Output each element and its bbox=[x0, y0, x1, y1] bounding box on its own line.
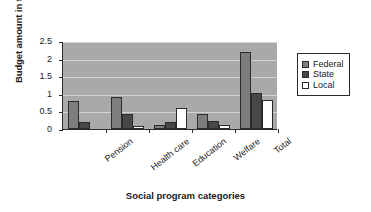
chart-legend: Federal State Local bbox=[297, 53, 350, 96]
legend-item-federal: Federal bbox=[302, 60, 344, 69]
bar-federal-education bbox=[154, 125, 165, 129]
bar-state-total bbox=[251, 93, 262, 129]
bar-local-welfare bbox=[219, 125, 230, 129]
bar-group bbox=[106, 42, 149, 129]
bar-state-health-care bbox=[122, 114, 133, 129]
x-axis-label-education: Education bbox=[191, 136, 229, 169]
x-axis-tick-labels: PensionHealth careEducationWelfareTotal bbox=[62, 132, 277, 178]
bar-group bbox=[149, 42, 192, 129]
x-axis-label-welfare: Welfare bbox=[232, 136, 262, 163]
legend-swatch-state bbox=[302, 71, 309, 78]
y-axis-tick-label: 1 bbox=[0, 90, 52, 99]
bar-federal-welfare bbox=[197, 114, 208, 129]
bar-group bbox=[63, 42, 106, 129]
x-axis-title: Social program categories bbox=[0, 190, 371, 201]
legend-swatch-local bbox=[302, 82, 309, 89]
bar-federal-health-care bbox=[111, 97, 122, 129]
bar-local-education bbox=[176, 108, 187, 129]
bar-state-pension bbox=[79, 122, 90, 129]
y-axis-tick-label: 0 bbox=[0, 125, 52, 134]
y-axis-tick-label: 2 bbox=[0, 55, 52, 64]
y-axis-tick-label: 2.5 bbox=[0, 37, 52, 46]
legend-label-local: Local bbox=[313, 81, 335, 90]
y-axis-tick-label: 0.5 bbox=[0, 107, 52, 116]
bar-federal-total bbox=[240, 52, 251, 129]
bar-state-welfare bbox=[208, 121, 219, 129]
bar-chart: Budget amount in trillions 00.511.522.5 … bbox=[0, 0, 371, 212]
bar-local-total bbox=[262, 100, 273, 129]
bar-group bbox=[192, 42, 235, 129]
plot-area bbox=[62, 42, 277, 130]
legend-item-state: State bbox=[302, 70, 344, 79]
bar-group bbox=[235, 42, 278, 129]
bar-local-health-care bbox=[133, 126, 144, 129]
y-axis-tick-label: 1.5 bbox=[0, 72, 52, 81]
bar-federal-pension bbox=[68, 101, 79, 129]
legend-label-federal: Federal bbox=[313, 60, 344, 69]
legend-label-state: State bbox=[313, 70, 334, 79]
y-axis-tick bbox=[59, 130, 63, 131]
x-axis-label-health-care: Health care bbox=[149, 136, 191, 172]
x-axis-label-total: Total bbox=[272, 136, 293, 156]
bar-state-education bbox=[165, 122, 176, 129]
x-axis-tick bbox=[278, 129, 279, 133]
legend-item-local: Local bbox=[302, 81, 344, 90]
legend-swatch-federal bbox=[302, 61, 309, 68]
x-axis-label-pension: Pension bbox=[103, 136, 135, 164]
